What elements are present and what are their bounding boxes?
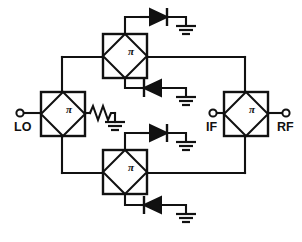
circuit-schematic: π LO π <box>0 0 302 242</box>
coupler-rf[interactable]: π <box>224 92 268 136</box>
ground-resistor-icon <box>105 122 125 130</box>
coupler-lo-box <box>41 92 85 136</box>
diode-bottom-lower-lead-out <box>161 205 186 214</box>
diode-bottom-lower-triangle <box>144 197 161 213</box>
coupler-top-pi-label: π <box>128 45 135 57</box>
schematic-canvas: π LO π <box>0 0 302 242</box>
diode-top-upper-lead-out <box>167 17 186 26</box>
ground-bottom-upper-icon <box>176 142 196 150</box>
diode-top-lower[interactable] <box>141 79 186 97</box>
diode-bottom-upper[interactable] <box>141 124 186 142</box>
diode-bottom-lower[interactable] <box>141 196 186 214</box>
top-coupler-lower-branch-wire <box>125 78 141 88</box>
diode-top-upper[interactable] <box>141 8 186 26</box>
bottom-coupler-upper-branch-wire <box>125 133 141 150</box>
termination-resistor <box>85 106 115 122</box>
coupler-lo-pi-label: π <box>66 103 73 115</box>
diode-top-lower-triangle <box>144 80 161 96</box>
ground-top-upper-icon <box>176 26 196 34</box>
ground-top-lower-icon <box>176 97 196 105</box>
coupler-bottom[interactable]: π <box>103 150 147 194</box>
coupler-lo[interactable]: π <box>41 92 85 136</box>
coupler-bottom-box <box>103 150 147 194</box>
coupler-rf-box <box>224 92 268 136</box>
rf-port-dot[interactable] <box>282 109 289 116</box>
lo-port-dot[interactable] <box>16 109 23 116</box>
diode-bottom-upper-triangle <box>150 125 167 141</box>
diode-bottom-upper-lead-out <box>167 133 186 142</box>
resistor-zigzag <box>90 106 115 120</box>
coupler-rf-pi-label: π <box>249 103 256 115</box>
ground-bottom-lower-icon <box>176 214 196 222</box>
coupler-bottom-pi-label: π <box>128 161 135 173</box>
coupler-top-box <box>103 34 147 78</box>
coupler-top[interactable]: π <box>103 34 147 78</box>
top-coupler-upper-branch-wire <box>125 17 141 34</box>
rf-port-label: RF <box>277 120 294 134</box>
diode-top-lower-lead-out <box>161 88 186 97</box>
bus-wires <box>62 57 245 173</box>
if-port-dot[interactable] <box>209 109 216 116</box>
if-port-label: IF <box>206 120 217 134</box>
bottom-coupler-lower-branch-wire <box>125 194 141 205</box>
lo-port-label: LO <box>14 120 32 134</box>
diode-top-upper-triangle <box>150 9 167 25</box>
